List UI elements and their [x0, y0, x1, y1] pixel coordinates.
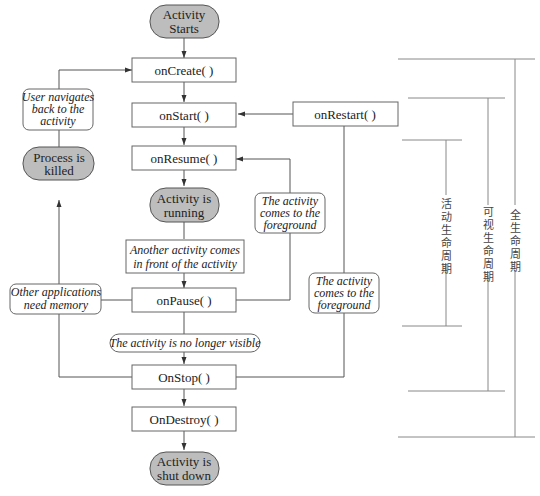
- svg-text:onRestart( ): onRestart( ): [314, 107, 376, 122]
- svg-text:killed: killed: [44, 163, 74, 178]
- svg-text:onPause( ): onPause( ): [156, 293, 211, 308]
- svg-text:动: 动: [441, 211, 452, 224]
- entire-lifetime-label: 全 生 命 周 期: [510, 208, 521, 274]
- svg-text:onCreate( ): onCreate( ): [155, 63, 214, 78]
- activity-lifecycle-diagram: 活 动 生 命 周 期 可 视 生 命 周 期 全 生 命 周 期: [0, 0, 540, 496]
- svg-text:生: 生: [441, 223, 452, 237]
- svg-text:Starts: Starts: [169, 21, 199, 36]
- svg-text:onStart( ): onStart( ): [159, 108, 208, 123]
- on-restart-box: onRestart( ): [293, 102, 398, 126]
- comes-to-foreground-note-1: The activity comes to the foreground: [255, 193, 325, 233]
- process-killed-terminal: Process is killed: [23, 147, 94, 180]
- svg-text:foreground: foreground: [317, 298, 371, 312]
- svg-text:foreground: foreground: [263, 218, 317, 232]
- on-stop-box: OnStop( ): [132, 365, 236, 389]
- svg-text:Activity is: Activity is: [157, 191, 212, 206]
- svg-text:期: 期: [441, 263, 452, 276]
- activity-starts-terminal: Activity Starts: [150, 5, 219, 38]
- svg-text:OnDestroy( ): OnDestroy( ): [150, 412, 219, 427]
- svg-text:生: 生: [510, 221, 521, 235]
- svg-text:期: 期: [483, 271, 494, 284]
- svg-text:Other applications: Other applications: [11, 285, 102, 299]
- svg-text:OnStop( ): OnStop( ): [158, 370, 210, 385]
- comes-to-foreground-note-2: The activity comes to the foreground: [309, 273, 379, 313]
- no-longer-visible-note: The activity is no longer visible: [110, 334, 262, 352]
- svg-text:activity: activity: [40, 114, 76, 128]
- svg-text:周: 周: [510, 248, 521, 261]
- svg-text:in front of the activity: in front of the activity: [133, 257, 237, 271]
- on-resume-box: onResume( ): [132, 146, 236, 170]
- svg-text:周: 周: [483, 258, 494, 271]
- svg-text:命: 命: [483, 244, 494, 258]
- svg-text:生: 生: [483, 231, 494, 245]
- on-pause-box: onPause( ): [132, 288, 236, 312]
- user-navigates-note: User navigates back to the activity: [22, 89, 95, 130]
- svg-text:周: 周: [441, 250, 452, 263]
- svg-text:Activity: Activity: [163, 7, 206, 22]
- on-create-box: onCreate( ): [132, 58, 236, 82]
- svg-text:期: 期: [510, 261, 521, 274]
- activity-shutdown-terminal: Activity is shut down: [150, 452, 219, 485]
- foreground-lifetime-label: 活 动 生 命 周 期: [441, 198, 452, 276]
- another-activity-note: Another activity comes in front of the a…: [126, 240, 244, 273]
- other-apps-note: Other applications need memory: [10, 284, 101, 314]
- svg-text:Activity is: Activity is: [157, 454, 212, 469]
- svg-text:可: 可: [483, 206, 494, 219]
- svg-text:need memory: need memory: [24, 298, 89, 312]
- svg-text:running: running: [164, 205, 205, 220]
- svg-text:Another activity comes: Another activity comes: [129, 243, 240, 257]
- svg-text:命: 命: [510, 234, 521, 248]
- activity-running-terminal: Activity is running: [150, 188, 219, 222]
- svg-text:全: 全: [510, 208, 521, 222]
- svg-text:活: 活: [441, 198, 452, 211]
- svg-text:命: 命: [441, 236, 452, 250]
- on-destroy-box: OnDestroy( ): [132, 407, 236, 431]
- on-start-box: onStart( ): [132, 103, 236, 127]
- svg-text:onResume( ): onResume( ): [151, 151, 218, 166]
- svg-text:shut down: shut down: [157, 468, 211, 483]
- svg-text:The activity is no longer visi: The activity is no longer visible: [110, 336, 262, 350]
- visible-lifetime-label: 可 视 生 命 周 期: [483, 206, 494, 284]
- svg-text:视: 视: [483, 218, 494, 232]
